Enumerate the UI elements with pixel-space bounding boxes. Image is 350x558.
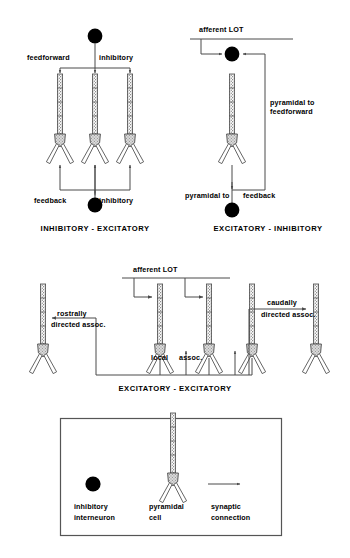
pyramidal-cell [218, 74, 245, 164]
inhibitory-interneuron [225, 203, 240, 218]
inhibitory-interneuron [88, 198, 103, 213]
pyramidal-cell [302, 284, 329, 374]
pyramidal-cell [116, 74, 143, 164]
label-feedforward: feedforward [27, 53, 70, 62]
label-afferent-lot: afferent LOT [133, 265, 178, 274]
panel-excitatory-excitatory: afferent LOT rostrally directed assoc. c… [29, 265, 329, 393]
label-feedback-right: feedback [243, 191, 275, 200]
inhibitory-interneuron [88, 29, 103, 44]
legend-label-line1: synaptic [211, 502, 241, 511]
label-inhibitory-top: inhibitory [99, 53, 133, 62]
pyramidal-cell [81, 74, 108, 164]
label-pyramidal-to: pyramidal to [270, 98, 315, 107]
label-pyramidal-to-bottom: pyramidal to [185, 191, 230, 200]
label-caudally: caudally [267, 298, 297, 307]
legend-label-line1: pyramidal [149, 502, 184, 511]
legend-filled-circle-icon [85, 476, 100, 491]
label-directed-assoc-rostral: directed assoc. [51, 320, 106, 329]
label-feedforward-right: feedforward [270, 107, 313, 116]
panel-inhibitory-excitatory: feedforward inhibitory feedback inhibito… [27, 29, 149, 233]
label-assoc: assoc. [179, 353, 202, 362]
panel-excitatory-inhibitory: afferent LOT pyramidal to feedforward py… [185, 25, 322, 233]
legend-pyramidal-neuron-icon [159, 413, 186, 503]
panel-caption: EXCITATORY - INHIBITORY [214, 224, 323, 233]
label-rostrally: rostrally [57, 309, 87, 318]
legend-label-line2: interneuron [74, 513, 115, 522]
legend-label-line1: inhibitory [74, 502, 108, 511]
inhibitory-interneuron [225, 47, 240, 62]
figure-root: feedforward inhibitory feedback inhibito… [0, 0, 350, 558]
panel-caption: INHIBITORY - EXCITATORY [41, 224, 150, 233]
legend-box: inhibitory interneuron pyramidal cell sy… [61, 413, 282, 536]
legend-label-line2: cell [149, 513, 161, 522]
pyramidal-cell [46, 74, 73, 164]
legend-label-line2: connection [211, 513, 250, 522]
label-inhibitory-bottom: inhibitory [99, 196, 133, 205]
diagram-canvas: feedforward inhibitory feedback inhibito… [0, 0, 350, 558]
label-afferent-lot: afferent LOT [199, 25, 244, 34]
panel-caption: EXCITATORY - EXCITATORY [119, 384, 232, 393]
label-directed-assoc-caudal: directed assoc. [261, 310, 316, 319]
label-local: local [151, 353, 168, 362]
label-feedback: feedback [34, 196, 66, 205]
